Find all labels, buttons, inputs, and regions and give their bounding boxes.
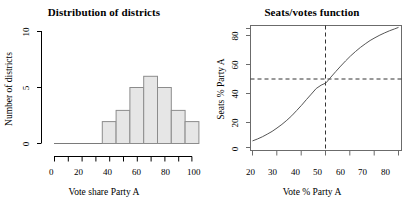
histogram-bar: [144, 76, 158, 143]
figure-container: Distribution of districts Number of dist…: [0, 0, 416, 204]
x-axis-ticks-right: [253, 151, 399, 156]
x-axis-left: [54, 157, 192, 162]
histogram-bar: [171, 110, 185, 143]
histogram-bar: [185, 122, 199, 144]
seats-votes-plot-right: [208, 0, 416, 204]
panel-seats-votes-function: Seats/votes function Seats % Party A 0 2…: [208, 0, 416, 204]
histogram-bar: [116, 110, 130, 143]
histogram-bar: [102, 122, 116, 144]
histogram-bar: [158, 88, 172, 144]
histogram-bars-left: [102, 76, 199, 143]
panel-distribution-of-districts: Distribution of districts Number of dist…: [0, 0, 208, 204]
histogram-bar: [130, 88, 144, 144]
histogram-plot-left: [0, 0, 208, 204]
y-axis-ticks-right: [246, 29, 251, 148]
